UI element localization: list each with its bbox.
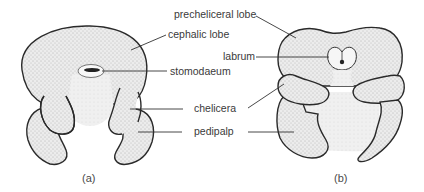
label-labrum: labrum bbox=[223, 50, 255, 62]
label-stomodaeum: stomodaeum bbox=[170, 65, 231, 77]
embryo-diagram: cephalic lobe stomodaeum chelicera pedip… bbox=[0, 0, 424, 192]
figure-a: cephalic lobe stomodaeum chelicera pedip… bbox=[22, 26, 236, 184]
leader-precheliceral-lobe bbox=[256, 16, 296, 38]
label-cephalic-lobe: cephalic lobe bbox=[168, 28, 229, 40]
caption-a: (a) bbox=[82, 172, 95, 184]
label-chelicera: chelicera bbox=[194, 102, 236, 114]
caption-b: (b) bbox=[334, 172, 347, 184]
neck-b bbox=[330, 70, 354, 86]
label-precheliceral-lobe: precheliceral lobe bbox=[174, 8, 256, 20]
labrum-dot bbox=[340, 60, 344, 64]
label-pedipalp: pedipalp bbox=[194, 125, 234, 137]
stomodaeum-opening bbox=[84, 68, 100, 72]
